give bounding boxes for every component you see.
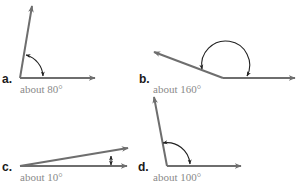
angle-c bbox=[20, 148, 128, 166]
angle-d-arc-icon bbox=[163, 143, 190, 164]
angle-c-caption: about 10° bbox=[20, 172, 63, 183]
angle-b-arc-icon bbox=[202, 41, 250, 76]
angle-d bbox=[154, 97, 241, 166]
angle-c-label: c. bbox=[2, 161, 12, 173]
angle-b-left-ray bbox=[154, 52, 223, 78]
angle-d-label: d. bbox=[138, 161, 149, 173]
angle-d-caption: about 100° bbox=[153, 172, 201, 183]
angle-a bbox=[20, 6, 95, 78]
angle-a-label: a. bbox=[2, 73, 12, 85]
angle-b-label: b. bbox=[139, 73, 150, 85]
angle-b-caption: about 160° bbox=[153, 84, 201, 95]
angle-d-upper-ray bbox=[154, 97, 167, 166]
angle-b bbox=[154, 41, 295, 78]
angle-a-caption: about 80° bbox=[20, 84, 63, 95]
angle-a-arc-icon bbox=[26, 55, 43, 76]
angle-c-upper-ray bbox=[20, 148, 128, 166]
angle-a-upper-ray bbox=[20, 6, 32, 78]
